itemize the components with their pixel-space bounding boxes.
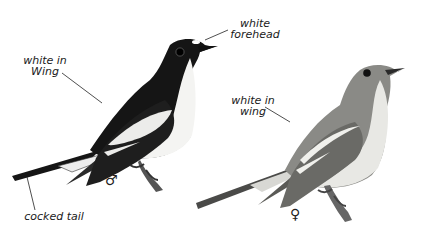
forehead-leader-line [205,30,228,40]
label-cocked-tail: cocked tail [18,211,90,222]
label-white-forehead: white forehead [230,18,280,40]
female-bird [196,65,405,222]
label-male-white-in-wing: white in Wing [20,55,70,77]
tail-leader-line [27,177,35,210]
label-female-white-in-wing: white in wing [228,95,278,117]
male-symbol-icon: ♂ [105,173,118,187]
birds-artwork [0,0,429,242]
male-wing-leader-line [62,73,102,103]
bird-illustration: white forehead white in Wing white in wi… [0,0,429,242]
female-symbol-icon: ♀ [290,207,300,221]
